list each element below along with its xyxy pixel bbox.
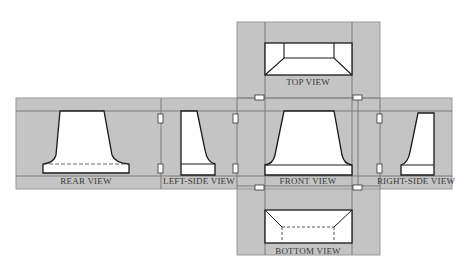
hinge-icon (158, 114, 163, 123)
top-view-label: TOP VIEW (286, 77, 330, 87)
left-side-view-label: LEFT-SIDE VIEW (163, 176, 235, 186)
glass-box-diagram: TOP VIEW REAR VIEW LEFT-SIDE VIEW FRONT … (0, 0, 468, 274)
bottom-view: BOTTOM VIEW (265, 210, 352, 256)
rear-view-label: REAR VIEW (60, 176, 112, 186)
right-side-view-label: RIGHT-SIDE VIEW (377, 176, 456, 186)
bottom-view-label: BOTTOM VIEW (275, 246, 341, 256)
hinge-icon (377, 114, 382, 123)
hinge-icon (377, 164, 382, 173)
hinge-icon (353, 95, 362, 100)
hinge-icon (233, 164, 238, 173)
front-view-label: FRONT VIEW (280, 176, 337, 186)
hinge-icon (255, 185, 264, 190)
hinge-icon (353, 185, 362, 190)
hinge-icon (255, 95, 264, 100)
hinge-icon (158, 164, 163, 173)
hinge-icon (233, 114, 238, 123)
